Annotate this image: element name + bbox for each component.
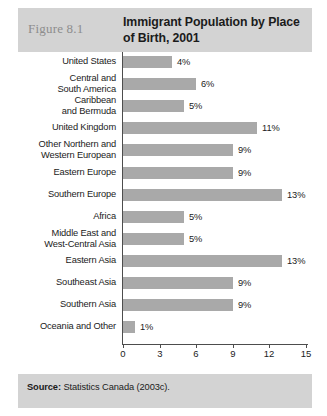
x-tick-label: 6	[185, 348, 207, 359]
category-label: Other Northern and Western European	[16, 139, 116, 160]
bar	[123, 122, 257, 134]
bar-row: Oceania and Other1%	[18, 321, 312, 333]
category-label: Middle East and West-Central Asia	[16, 228, 116, 249]
x-tick-label: 15	[295, 348, 317, 359]
x-tick-label: 0	[112, 348, 134, 359]
bar-row: Southern Asia9%	[18, 299, 312, 311]
bar-row: Southeast Asia9%	[18, 277, 312, 289]
bar	[123, 144, 233, 156]
bar	[123, 100, 184, 112]
bar	[123, 321, 135, 333]
category-label: Southeast Asia	[16, 277, 116, 288]
bar	[123, 78, 196, 90]
category-label: Southern Europe	[16, 189, 116, 200]
figure-number: Figure 8.1	[28, 21, 83, 37]
category-label: Oceania and Other	[16, 321, 116, 332]
source-citation: Statistics Canada (2003c).	[63, 382, 169, 392]
bar	[123, 56, 172, 68]
bar-value-label: 5%	[189, 233, 202, 245]
category-label: Eastern Asia	[16, 255, 116, 266]
bar-row: United States4%	[18, 56, 312, 68]
x-tick-label: 12	[258, 348, 280, 359]
bar-value-label: 5%	[189, 211, 202, 223]
bar-row: Africa5%	[18, 211, 312, 223]
x-tick-label: 3	[149, 348, 171, 359]
category-label: Southern Asia	[16, 299, 116, 310]
bar	[123, 255, 282, 267]
category-label: Caribbean and Bermuda	[16, 95, 116, 116]
bar	[123, 277, 233, 289]
bar-value-label: 11%	[262, 122, 280, 134]
bar-row: Other Northern and Western European9%	[18, 144, 312, 156]
bar	[123, 189, 282, 201]
bar-value-label: 1%	[140, 321, 153, 333]
x-tick-label: 9	[222, 348, 244, 359]
bar-value-label: 13%	[287, 255, 305, 267]
bar	[123, 233, 184, 245]
bar-row: Caribbean and Bermuda5%	[18, 100, 312, 112]
source-label: Source:	[27, 382, 61, 392]
bar-value-label: 9%	[238, 167, 251, 179]
category-label: Africa	[16, 211, 116, 222]
bar-row: Middle East and West-Central Asia5%	[18, 233, 312, 245]
bar	[123, 299, 233, 311]
category-label: United States	[16, 56, 116, 67]
figure-title: Immigrant Population by Place of Birth, …	[123, 15, 305, 46]
bar-value-label: 4%	[177, 56, 190, 68]
bar-value-label: 9%	[238, 144, 251, 156]
bar-value-label: 5%	[189, 100, 202, 112]
category-label: United Kingdom	[16, 122, 116, 133]
bar-value-label: 13%	[287, 189, 305, 201]
category-label: Eastern Europe	[16, 167, 116, 178]
bar-row: Eastern Asia13%	[18, 255, 312, 267]
bar-row: Eastern Europe9%	[18, 167, 312, 179]
bar-value-label: 9%	[238, 277, 251, 289]
bar-value-label: 9%	[238, 299, 251, 311]
x-axis-line	[122, 344, 308, 345]
source-note: Source: Statistics Canada (2003c).	[27, 382, 170, 392]
category-label: Central and South America	[16, 73, 116, 94]
bar	[123, 211, 184, 223]
bar-value-label: 6%	[201, 78, 214, 90]
bar-row: Central and South America6%	[18, 78, 312, 90]
bar	[123, 167, 233, 179]
chart-plot-area: United States4%Central and South America…	[18, 52, 312, 354]
source-band: Source: Statistics Canada (2003c).	[18, 374, 312, 408]
bar-row: Southern Europe13%	[18, 189, 312, 201]
figure-container: Figure 8.1 Immigrant Population by Place…	[18, 8, 312, 408]
bar-row: United Kingdom11%	[18, 122, 312, 134]
figure-header-band: Figure 8.1 Immigrant Population by Place…	[18, 8, 312, 52]
